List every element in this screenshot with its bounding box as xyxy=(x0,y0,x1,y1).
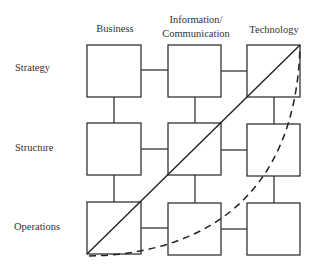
column-header-information-line1: Information/ xyxy=(169,14,222,26)
row-label-structure: Structure xyxy=(15,142,54,154)
box-strategy-information xyxy=(168,45,221,97)
box-structure-business xyxy=(87,123,141,175)
column-header-information-line2: Communication xyxy=(162,28,230,40)
column-header-business: Business xyxy=(96,23,133,35)
box-structure-technology xyxy=(247,124,300,176)
box-operations-information xyxy=(168,203,221,255)
column-header-technology: Technology xyxy=(249,24,298,36)
box-operations-technology xyxy=(247,203,300,255)
row-label-strategy: Strategy xyxy=(15,62,50,74)
strategic-alignment-diagram: Business Information/ Communication Tech… xyxy=(0,0,315,269)
row-label-operations: Operations xyxy=(14,221,60,233)
box-strategy-business xyxy=(87,45,141,97)
